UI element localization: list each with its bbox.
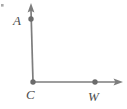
ray-cw-group	[33, 78, 123, 85]
ray-ca-group	[28, 3, 35, 82]
point-c-label: C	[26, 88, 35, 101]
point-c-dot	[30, 79, 35, 84]
point-a-dot	[28, 16, 33, 21]
point-a-label: A	[13, 14, 21, 27]
scan-artifact-mark	[1, 4, 4, 7]
geometry-figure: A C W	[0, 0, 127, 109]
point-w-dot	[92, 79, 97, 84]
point-w-label: W	[88, 90, 99, 103]
